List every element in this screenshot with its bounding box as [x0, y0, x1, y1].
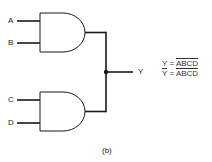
- equation-line-2: Y = ABCD: [162, 69, 198, 78]
- eq2-rhs: ABCD: [176, 69, 198, 78]
- input-label-b: B: [8, 39, 13, 47]
- junction-dot: [104, 70, 108, 74]
- equation-line-1: Y = ABCD: [162, 59, 198, 68]
- figure-caption: (b): [102, 147, 112, 155]
- circuit-drawing: [0, 0, 212, 162]
- eq2-equals: =: [167, 69, 176, 78]
- eq1-rhs: ABCD: [176, 59, 198, 68]
- and-gate-2: [17, 92, 106, 131]
- input-label-c: C: [8, 96, 14, 104]
- and-gate-1: [17, 13, 106, 52]
- input-label-d: D: [8, 119, 14, 127]
- output-label-y: Y: [138, 68, 143, 76]
- wired-and-connection: [106, 32, 133, 113]
- eq1-equals: =: [167, 59, 176, 68]
- input-label-a: A: [8, 17, 13, 25]
